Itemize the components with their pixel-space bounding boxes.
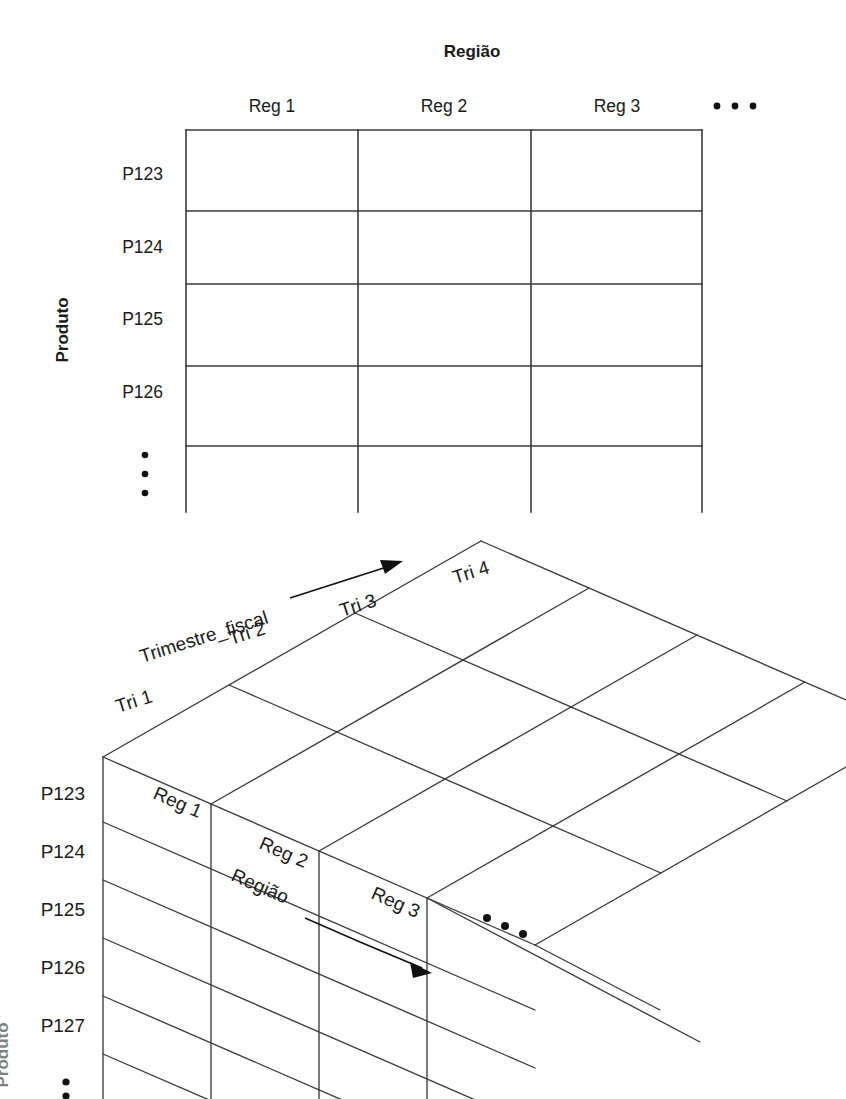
cube-3d-group: Trimestre_fiscal Tri 1 Tri 2 Tri 3 Tri 4… xyxy=(0,541,846,1099)
cube-row-label-p127: P127 xyxy=(41,1015,85,1036)
cube-depth-label-tri4: Tri 4 xyxy=(450,556,492,587)
table-cell xyxy=(358,284,531,366)
table-cell xyxy=(186,366,358,446)
cube-top-depth-lines xyxy=(103,541,846,945)
trimestre-axis-arrow xyxy=(290,560,403,598)
cube-side-depth-lines xyxy=(427,898,700,1042)
table-cells xyxy=(186,130,702,512)
cube-row-label-p124: P124 xyxy=(41,841,86,862)
table-column-header-reg1: Reg 1 xyxy=(249,96,296,116)
table-cell xyxy=(358,446,531,512)
table-cell xyxy=(531,446,702,512)
table-column-header-reg3: Reg 3 xyxy=(594,96,641,116)
table-row-ellipsis-icon xyxy=(142,452,149,497)
table-cell xyxy=(531,130,702,211)
cube-row-label-p125: P125 xyxy=(41,899,85,920)
table-cell xyxy=(358,130,531,211)
table-2d-group: Região Reg 1 Reg 2 Reg 3 Produto P123 P1… xyxy=(53,42,756,512)
cube-depth-label-tri1: Tri 1 xyxy=(113,686,155,717)
table-column-header-reg2: Reg 2 xyxy=(421,96,468,116)
table-cell xyxy=(531,366,702,446)
diagram-canvas: Região Reg 1 Reg 2 Reg 3 Produto P123 P1… xyxy=(0,0,846,1099)
table-cell xyxy=(358,366,531,446)
table-cell xyxy=(186,130,358,211)
cube-top-label-reg3: Reg 3 xyxy=(368,882,423,921)
table-column-ellipsis-icon xyxy=(714,103,757,110)
data-cube-figure: Região Reg 1 Reg 2 Reg 3 Produto P123 P1… xyxy=(0,0,846,1099)
table-column-axis-title: Região xyxy=(444,42,501,61)
table-row-header-p126: P126 xyxy=(122,382,163,402)
cube-row-ellipsis-icon xyxy=(62,1078,69,1099)
cube-top-ellipsis-icon xyxy=(483,914,527,938)
cube-row-label-p126: P126 xyxy=(41,957,85,978)
table-row-axis-title: Produto xyxy=(53,297,72,362)
cube-top-axis-title: Região xyxy=(228,864,292,907)
table-cell xyxy=(186,211,358,284)
cube-depth-label-tri3: Tri 3 xyxy=(337,590,379,621)
cube-row-axis-title: Produto xyxy=(0,1022,12,1087)
cube-top-label-reg1: Reg 1 xyxy=(150,782,205,821)
table-cell xyxy=(186,284,358,366)
cube-top-width-lines xyxy=(103,541,846,945)
table-cell xyxy=(531,211,702,284)
table-row-header-p125: P125 xyxy=(122,309,163,329)
table-cell xyxy=(358,211,531,284)
cube-row-label-p123: P123 xyxy=(41,783,85,804)
table-row-header-p123: P123 xyxy=(122,164,163,184)
table-cell xyxy=(186,446,358,512)
table-row-header-p124: P124 xyxy=(122,237,163,257)
cube-top-label-reg2: Reg 2 xyxy=(256,832,311,871)
table-cell xyxy=(531,284,702,366)
